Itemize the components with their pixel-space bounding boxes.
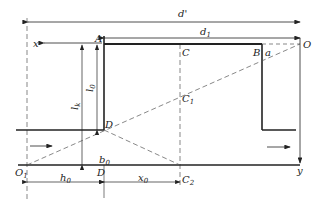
d1-dimension: d1 (104, 26, 300, 39)
label-o1: O1 (15, 167, 28, 180)
diagonal-d-c2 (104, 130, 180, 165)
diagram-canvas: d' d1 x A C B a O C1 D D C (0, 0, 321, 200)
label-c: C (182, 47, 190, 58)
label-lk: lk (69, 103, 82, 110)
label-y: y (296, 165, 303, 176)
label-d-upper: D (104, 119, 113, 130)
x-axis: x (33, 38, 102, 49)
label-c1: C1 (182, 93, 194, 106)
d-prime-label: d' (178, 8, 187, 19)
label-l0: l0 (84, 84, 97, 92)
label-a-lower: a (265, 47, 271, 58)
label-b: B (252, 47, 260, 58)
label-x0: x0 (138, 172, 149, 185)
d1-label: d1 (200, 26, 211, 39)
diagonal-o1-o (27, 44, 300, 165)
x-axis-label: x (33, 38, 39, 49)
label-c2: C2 (182, 174, 195, 187)
d-prime-dimension: d' (28, 8, 300, 22)
label-h0: h0 (60, 172, 71, 185)
label-o: O (303, 39, 311, 50)
label-a-upper: A (94, 33, 102, 44)
label-d-lower: D (96, 167, 105, 178)
